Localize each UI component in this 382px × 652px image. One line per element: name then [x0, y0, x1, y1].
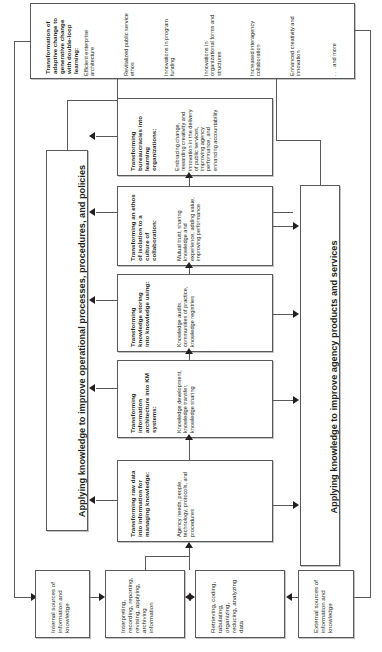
stage-2-to-right-banner-line [273, 226, 293, 227]
stage-3-to-stage-2-arrow [185, 262, 193, 268]
source-internal-label: Internal sources of information and know… [50, 577, 71, 633]
km-transformation-diagram: Transformation of adaptive change to gen… [0, 0, 382, 652]
banner-left-box: Applying knowledge to improve operationa… [46, 150, 88, 531]
stage-1-to-left-banner-line [96, 136, 117, 137]
stage-4-to-right-banner-line [273, 400, 293, 401]
source-box-external: External sources of information and know… [298, 570, 354, 638]
feedback-left-vertical [14, 41, 15, 597]
stage-1-title: Transforming bureaucracies into learning… [130, 105, 158, 171]
interpreting-riser [145, 556, 146, 570]
stage-3-items: Knowledge audits, communities of practic… [176, 281, 195, 347]
stage-4-to-stage-3-arrow [185, 348, 193, 354]
stage-4-to-left-banner-line [96, 388, 117, 389]
stage-5-to-right-banner-line [273, 505, 293, 506]
stage-4-items: Knowledge development, knowledge transfe… [176, 367, 195, 433]
stage-5-to-left-banner-arrow [89, 496, 95, 504]
stage-1-items: Embracing change, rewarding creativity a… [174, 105, 218, 171]
stage-box-4: Transforming information architecture in… [117, 360, 273, 438]
stage-4-to-left-banner-arrow [89, 384, 95, 392]
stage-3-to-right-banner-arrow [293, 310, 299, 318]
stage-3-to-left-banner-arrow [89, 296, 95, 304]
stage-3-to-left-banner-line [96, 300, 117, 301]
stage-5-title: Transforming raw data into information f… [130, 467, 151, 537]
stage-5-items: Agency needs, people, technology, protoc… [176, 467, 195, 537]
stage-5-to-stage-4-arrow [185, 434, 193, 440]
internal-to-interpreting-arrow [99, 593, 105, 601]
internal-to-interpreting-line [90, 597, 99, 598]
source-box-interpreting: Interpreting, recording, reporting, revi… [105, 570, 185, 638]
stage-3-to-right-banner-line [273, 314, 293, 315]
outcomes-box: Transformation of adaptive change to gen… [30, 3, 355, 79]
banner-left-riser-to-box [117, 79, 118, 100]
banner-left-label: Applying knowledge to improve operationa… [77, 161, 88, 521]
outcomes-title: Transformation of adaptive change to gen… [45, 10, 80, 74]
feedback-right-vertical [370, 30, 371, 597]
external-to-retrieving-arrow [286, 593, 292, 601]
stage-5-to-right-banner-arrow [293, 501, 299, 509]
source-interpreting-label: Interpreting, recording, reporting, revi… [120, 577, 155, 633]
source-external-label: External sources of information and know… [313, 577, 334, 633]
feedback-left-bottom-segment [14, 597, 31, 598]
stage-5-to-stage-4-line [189, 438, 190, 460]
outcome-item: Revitalized public service ethos [123, 10, 136, 76]
banner-right-riser [320, 140, 321, 185]
banner-left-riser [67, 100, 68, 150]
stage-5-to-left-banner-line [96, 500, 117, 501]
stage-4-to-right-banner-arrow [293, 396, 299, 404]
source-box-retrieving: Retrieving, coding, tabulating, organizi… [195, 570, 285, 638]
stage-2-to-right-banner-arrow [293, 222, 299, 230]
feedback-right-top-segment [355, 30, 371, 31]
sources-to-stage-5-line [189, 548, 190, 562]
sources-to-stage-5-arrow [185, 542, 193, 548]
outcome-item: . . . and more [331, 10, 337, 76]
feedback-right-bottom-segment [354, 597, 371, 598]
outcome-item: Innovations in organizational forms and … [203, 10, 222, 76]
stage-2-items: Mutual trust, sharing knowledge and expe… [176, 193, 201, 261]
banner-right-riser-top [276, 140, 320, 141]
interpreting-riser-top [145, 556, 189, 557]
stage-4-title: Transforming information architecture in… [130, 367, 158, 433]
external-to-retrieving-line [292, 597, 299, 598]
stage-box-2: Transforming an ethos of isolation to a … [117, 186, 273, 266]
outcome-item: Innovations in program funding [163, 10, 176, 76]
stage-3-title: Transforming knowledge storing into know… [130, 281, 151, 347]
stage-2-to-left-banner-line [96, 212, 117, 213]
outcome-item: Enhanced creativity and innovation [289, 10, 302, 76]
stage-1-to-left-banner-arrow [89, 132, 95, 140]
outcome-item: Efficient enterprise architecture [83, 10, 96, 76]
banner-right-label: Applying knowledge to improve agency pro… [329, 196, 340, 558]
banner-right-box: Applying knowledge to improve agency pro… [300, 185, 340, 566]
outcome-item: Increased interagency collaboration [249, 10, 262, 76]
banner-left-riser-top [67, 100, 117, 101]
stage-box-5: Transforming raw data into information f… [117, 460, 273, 542]
banner-right-riser-to-box [276, 79, 277, 140]
interpreting-retrieving-arrow-right [189, 593, 195, 601]
stage-2-title: Transforming an ethos of isolation to a … [130, 193, 158, 261]
feedback-left-top-segment [14, 41, 30, 42]
stage-2-to-stage-1-arrow [185, 172, 193, 178]
stage-box-1: Transforming bureaucracies into learning… [117, 98, 273, 176]
source-retrieving-label: Retrieving, coding, tabulating, organizi… [210, 577, 245, 633]
stage-1-to-right-banner-line [273, 212, 293, 213]
stage-box-3: Transforming knowledge storing into know… [117, 274, 273, 352]
source-box-internal: Internal sources of information and know… [35, 570, 90, 638]
stage-2-to-left-banner-arrow [89, 208, 95, 216]
